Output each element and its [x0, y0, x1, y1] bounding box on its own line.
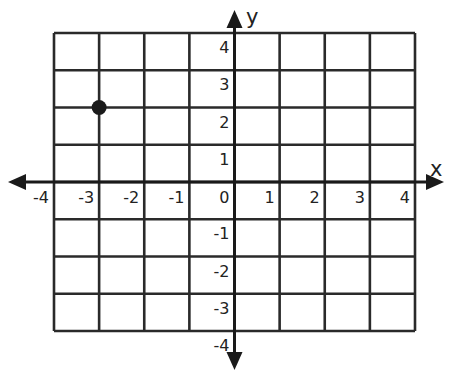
y-tick-label: 3 [219, 75, 229, 94]
y-tick-label: 4 [219, 38, 229, 57]
y-tick-label: -3 [214, 299, 230, 318]
y-tick-label: 1 [219, 150, 229, 169]
x-axis-left-arrow-icon [8, 174, 26, 190]
x-tick-label: -4 [33, 188, 49, 207]
y-tick-label: -1 [214, 224, 230, 243]
y-axis-up-arrow-icon [227, 10, 243, 28]
x-tick-label: 4 [400, 188, 410, 207]
x-tick-label: -3 [78, 188, 94, 207]
y-axis-label: y [246, 5, 258, 29]
coordinate-plane: -4-3-2-1012344321-1-2-3-4 x y [0, 0, 449, 376]
x-tick-label: 0 [219, 188, 229, 207]
y-tick-label: 2 [219, 113, 229, 132]
y-tick-label: -2 [214, 262, 230, 281]
x-tick-label: 3 [355, 188, 365, 207]
y-tick-label: -4 [214, 336, 230, 355]
data-point [92, 100, 107, 115]
data-points [92, 100, 107, 115]
x-axis-label: x [430, 157, 442, 181]
x-tick-label: -1 [168, 188, 184, 207]
x-tick-label: -2 [123, 188, 139, 207]
tick-labels: -4-3-2-1012344321-1-2-3-4 [33, 38, 410, 355]
x-tick-label: 1 [264, 188, 274, 207]
x-tick-label: 2 [310, 188, 320, 207]
